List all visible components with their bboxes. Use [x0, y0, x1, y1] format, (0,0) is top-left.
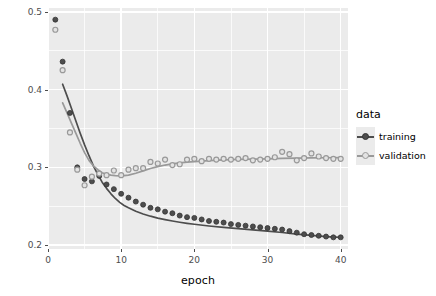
data-point	[228, 157, 233, 162]
data-point	[104, 173, 109, 178]
data-point	[53, 27, 58, 32]
data-point	[60, 68, 65, 73]
data-point	[316, 233, 321, 238]
data-point	[324, 234, 329, 239]
y-tick-label: 0.2	[14, 240, 42, 250]
data-point	[280, 227, 285, 232]
data-point	[236, 156, 241, 161]
data-point	[133, 166, 138, 171]
x-tick-label: 10	[109, 255, 133, 265]
data-point	[309, 233, 314, 238]
data-point	[126, 195, 131, 200]
data-point	[221, 156, 226, 161]
data-point	[221, 220, 226, 225]
data-point	[331, 156, 336, 161]
x-tick-label: 20	[182, 255, 206, 265]
data-point	[163, 209, 168, 214]
data-point	[316, 154, 321, 159]
data-point	[67, 130, 72, 135]
data-point	[331, 235, 336, 240]
legend-key-training	[356, 127, 375, 146]
data-point	[206, 219, 211, 224]
legend-label: training	[379, 131, 416, 142]
open-circle-icon	[362, 152, 369, 159]
data-point	[228, 222, 233, 227]
data-point	[302, 156, 307, 161]
smooth-line-validation	[63, 103, 341, 176]
data-point	[185, 215, 190, 220]
y-tick-label: 0.3	[14, 162, 42, 172]
data-point	[265, 156, 270, 161]
legend-items: trainingvalidation	[356, 127, 426, 165]
data-point	[302, 232, 307, 237]
legend-title: data	[356, 108, 426, 121]
x-tick-label: 0	[36, 255, 60, 265]
data-point	[155, 207, 160, 212]
data-point	[287, 152, 292, 157]
legend-item-validation: validation	[356, 146, 426, 165]
data-point	[82, 183, 87, 188]
data-point	[324, 156, 329, 161]
data-point	[141, 202, 146, 207]
data-point	[89, 174, 94, 179]
data-point	[338, 156, 343, 161]
data-point	[265, 226, 270, 231]
data-point	[119, 191, 124, 196]
data-point	[272, 226, 277, 231]
data-point	[133, 199, 138, 204]
data-point	[192, 156, 197, 161]
data-point	[60, 59, 65, 64]
x-axis-title: epoch	[48, 274, 348, 287]
data-point	[141, 166, 146, 171]
data-point	[214, 219, 219, 224]
data-point	[214, 157, 219, 162]
data-point	[148, 159, 153, 164]
y-axis-title: loss	[0, 122, 40, 138]
data-point	[97, 171, 102, 176]
data-point	[53, 17, 58, 22]
chart-legend: data trainingvalidation	[356, 108, 426, 165]
data-point	[75, 167, 80, 172]
data-point	[111, 168, 116, 173]
data-point	[309, 151, 314, 156]
legend-key-validation	[356, 146, 375, 165]
data-point	[104, 182, 109, 187]
series-training	[53, 17, 343, 240]
data-point	[280, 149, 285, 154]
data-point	[192, 215, 197, 220]
x-tick-mark	[194, 249, 195, 252]
data-point	[177, 213, 182, 218]
data-point	[272, 155, 277, 160]
data-point	[170, 211, 175, 216]
data-point	[148, 205, 153, 210]
data-point	[119, 173, 124, 178]
data-point	[155, 161, 160, 166]
data-point	[258, 157, 263, 162]
data-point	[111, 187, 116, 192]
data-point	[185, 157, 190, 162]
x-tick-label: 40	[329, 255, 353, 265]
x-tick-mark	[268, 249, 269, 252]
data-point	[163, 157, 168, 162]
data-points-layer	[53, 17, 343, 240]
loss-vs-epoch-chart: loss 0.20.30.40.5 010203040 epoch data t…	[0, 0, 436, 296]
x-tick-mark	[341, 249, 342, 252]
data-point	[243, 156, 248, 161]
data-point	[126, 167, 131, 172]
x-tick-mark	[48, 249, 49, 252]
series-validation	[53, 27, 343, 187]
data-point	[258, 225, 263, 230]
data-point	[236, 222, 241, 227]
data-point	[82, 177, 87, 182]
data-point	[287, 229, 292, 234]
data-point	[243, 223, 248, 228]
y-tick-label: 0.5	[14, 7, 42, 17]
data-point	[294, 230, 299, 235]
x-tick-mark	[121, 249, 122, 252]
data-point	[177, 162, 182, 167]
data-point	[338, 235, 343, 240]
data-layer	[48, 8, 348, 249]
legend-label: validation	[379, 150, 426, 161]
data-point	[206, 156, 211, 161]
data-point	[250, 158, 255, 163]
